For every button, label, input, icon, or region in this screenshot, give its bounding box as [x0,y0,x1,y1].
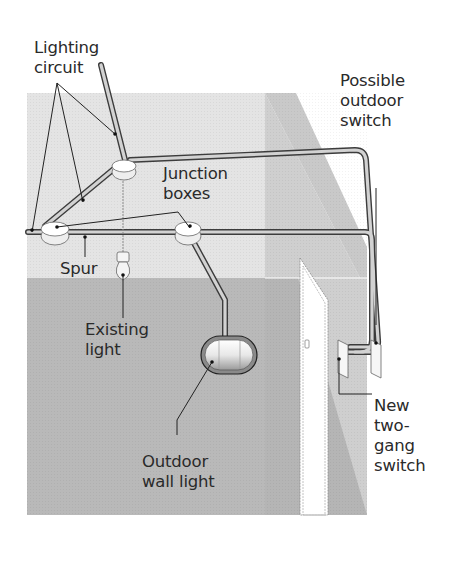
outdoor-wall-light [201,336,257,374]
label-lighting-circuit: Lighting circuit [34,38,99,78]
label-spur: Spur [60,259,97,279]
label-outdoor-wall-light: Outdoor wall light [142,452,215,492]
label-possible-outdoor-switch: Possible outdoor switch [340,71,405,131]
door [300,258,328,515]
junction-box-left [41,222,69,245]
door-handle-icon [305,340,309,348]
possible-outdoor-switch [371,340,381,378]
label-new-two-gang-switch: New two- gang switch [374,396,425,476]
label-existing-light: Existing light [85,320,149,360]
label-junction-boxes: Junction boxes [163,164,228,204]
junction-box-ceiling [112,160,136,180]
